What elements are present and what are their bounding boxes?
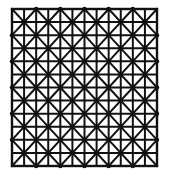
lattice-node: [131, 59, 135, 63]
lattice-node: [106, 111, 110, 115]
lattice-node: [143, 125, 147, 129]
lattice-node: [70, 72, 74, 76]
lattice-node: [106, 85, 110, 89]
lattice-node: [34, 59, 38, 63]
lattice-node: [143, 20, 147, 24]
lattice-node: [58, 85, 62, 89]
lattice-node: [22, 151, 26, 155]
lattice-node: [119, 46, 123, 50]
lattice-node: [94, 46, 98, 50]
lattice-node: [106, 33, 110, 37]
lattice-node: [46, 98, 50, 102]
lattice-node: [94, 98, 98, 102]
lattice-node: [131, 33, 135, 37]
lattice-node: [94, 151, 98, 155]
lattice-node: [82, 111, 86, 115]
lattice-diagram: [0, 0, 169, 180]
lattice-node: [22, 98, 26, 102]
lattice-node: [119, 125, 123, 129]
lattice-node: [58, 59, 62, 63]
lattice-node: [46, 72, 50, 76]
lattice-node: [82, 138, 86, 142]
lattice-node: [131, 85, 135, 89]
lattice-node: [82, 59, 86, 63]
lattice-node: [46, 125, 50, 129]
lattice-node: [58, 33, 62, 37]
lattice-node: [46, 46, 50, 50]
lattice-node: [131, 138, 135, 142]
lattice-node: [82, 85, 86, 89]
lattice-node: [119, 20, 123, 24]
lattice-node: [106, 138, 110, 142]
lattice-node: [70, 151, 74, 155]
lattice-node: [82, 33, 86, 37]
lattice-node: [58, 111, 62, 115]
lattice-node: [143, 151, 147, 155]
lattice-node: [119, 72, 123, 76]
lattice-node: [70, 46, 74, 50]
lattice-node: [143, 72, 147, 76]
lattice-node: [119, 151, 123, 155]
lattice-node: [34, 33, 38, 37]
lattice-node: [94, 125, 98, 129]
lattice-node: [46, 20, 50, 24]
lattice-node: [34, 138, 38, 142]
lattice-node: [106, 59, 110, 63]
lattice-node: [34, 111, 38, 115]
lattice-node: [143, 98, 147, 102]
lattice-node: [94, 20, 98, 24]
lattice-node: [22, 20, 26, 24]
lattice-node: [70, 20, 74, 24]
lattice-node: [58, 138, 62, 142]
lattice-node: [119, 98, 123, 102]
lattice-node: [22, 125, 26, 129]
lattice-node: [22, 46, 26, 50]
lattice-node: [143, 46, 147, 50]
lattice-node: [22, 72, 26, 76]
lattice-node: [94, 72, 98, 76]
lattice-node: [131, 111, 135, 115]
lattice-node: [70, 98, 74, 102]
lattice-node: [46, 151, 50, 155]
lattice-node: [70, 125, 74, 129]
lattice-node: [34, 85, 38, 89]
